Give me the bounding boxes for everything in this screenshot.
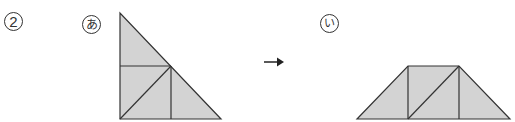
figures-canvas <box>0 0 515 122</box>
arrow-right-icon <box>264 58 284 67</box>
figure-a-triangle <box>120 13 221 119</box>
diagram-stage: 2 あ い <box>0 0 515 122</box>
figure-i-trapezoid <box>357 66 510 119</box>
